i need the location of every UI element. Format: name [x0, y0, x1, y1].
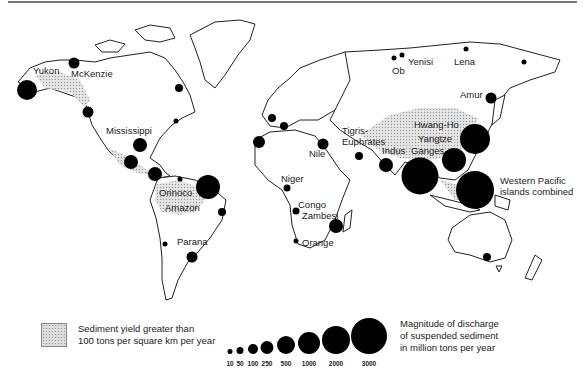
scale-circle — [228, 349, 233, 354]
scale-label: 100 — [248, 360, 259, 367]
magnitude-legend: Magnitude of discharge of suspended sedi… — [400, 318, 499, 354]
legend-line: of suspended sediment — [400, 330, 499, 342]
legend-line: in million tons per year — [400, 342, 499, 354]
scale-circle — [248, 344, 258, 354]
scale-label: 2000 — [329, 360, 343, 367]
scale-circle — [322, 326, 350, 354]
scale-label: 50 — [236, 360, 243, 367]
scale-circle — [351, 318, 387, 354]
scale-circle — [277, 336, 295, 354]
scale-label: 1000 — [302, 360, 316, 367]
scale-circle — [261, 341, 274, 354]
scale-circle — [237, 347, 244, 354]
scale-label: 3000 — [362, 360, 376, 367]
scale-label: 10 — [226, 360, 233, 367]
scale-label: 250 — [262, 360, 273, 367]
legend-line: Magnitude of discharge — [400, 318, 499, 330]
scale-label: 500 — [281, 360, 292, 367]
scale-circle — [298, 332, 320, 354]
